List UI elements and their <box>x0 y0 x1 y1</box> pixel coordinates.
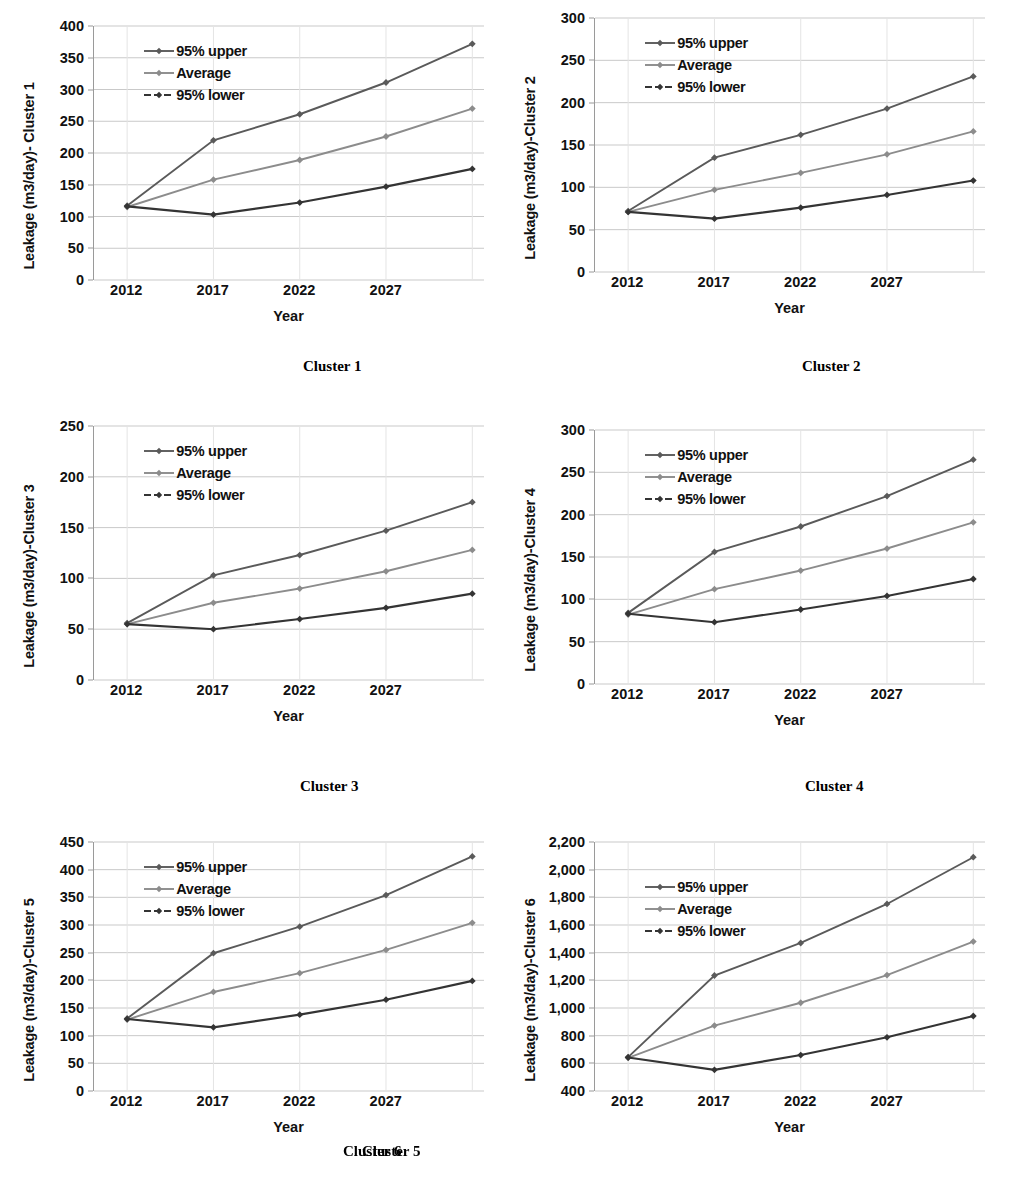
data-point-marker <box>296 199 303 206</box>
x-axis-title: Year <box>594 300 985 316</box>
chart-panel-cluster-2: Leakage (m3/day)-Cluster 205010015020025… <box>505 0 1009 410</box>
y-tick-label: 400 <box>60 18 84 34</box>
legend: 95% upperAverage95% lower <box>144 440 247 506</box>
legend-item-average[interactable]: Average <box>645 898 748 920</box>
legend-item-upper[interactable]: 95% upper <box>144 40 247 62</box>
x-tick-label: 2012 <box>110 1093 142 1109</box>
data-point-marker <box>296 970 303 977</box>
y-tick-label: 50 <box>569 634 585 650</box>
y-tick-label: 800 <box>561 1028 585 1044</box>
data-point-marker <box>797 1052 804 1059</box>
x-tick-label: 2017 <box>197 1093 229 1109</box>
data-point-marker <box>970 519 977 526</box>
y-tick-label: 0 <box>577 676 585 692</box>
legend: 95% upperAverage95% lower <box>144 40 247 106</box>
x-axis-ticks: 2012201720222027 <box>93 682 484 702</box>
y-axis-title-text: Leakage (m3/day)-Cluster 2 <box>522 76 538 259</box>
y-tick-label: 100 <box>561 591 585 607</box>
y-tick-label: 50 <box>68 240 84 256</box>
x-axis-ticks: 2012201720222027 <box>93 282 484 302</box>
y-axis-title: Leakage (m3/day)-Cluster 4 <box>519 430 541 730</box>
y-tick-label: 150 <box>561 137 585 153</box>
data-point-marker <box>970 1013 977 1020</box>
data-point-marker <box>469 590 476 597</box>
x-axis-ticks: 2012201720222027 <box>594 686 985 706</box>
chart-5: Leakage (m3/day)-Cluster 505010015020025… <box>18 842 488 1137</box>
data-point-marker <box>884 493 891 500</box>
data-point-marker <box>210 989 217 996</box>
chart-panel-cluster-4: Leakage (m3/day)-Cluster 405010015020025… <box>505 410 1009 820</box>
y-tick-label: 2,200 <box>549 834 585 850</box>
y-tick-label: 50 <box>68 1055 84 1071</box>
legend-label: Average <box>677 58 732 73</box>
legend-swatch-icon <box>645 925 675 937</box>
y-tick-label: 250 <box>60 418 84 434</box>
y-tick-label: 300 <box>561 10 585 26</box>
y-axis-title-text: Leakage (m3/day)-Cluster 3 <box>21 484 37 667</box>
legend-swatch-icon <box>144 883 174 895</box>
data-point-marker <box>970 177 977 184</box>
y-tick-label: 1,800 <box>549 889 585 905</box>
data-point-marker <box>884 545 891 552</box>
legend-item-average[interactable]: Average <box>645 54 748 76</box>
x-tick-label: 2027 <box>871 1093 903 1109</box>
x-tick-label: 2017 <box>698 1093 730 1109</box>
y-tick-label: 150 <box>60 1000 84 1016</box>
legend-item-upper[interactable]: 95% upper <box>144 440 247 462</box>
legend-item-lower[interactable]: 95% lower <box>144 84 247 106</box>
chart-panel-cluster-3: Leakage (m3/day)-Cluster 305010015020025… <box>0 410 505 820</box>
y-tick-label: 150 <box>60 177 84 193</box>
legend-label: Average <box>677 470 732 485</box>
y-tick-label: 1,200 <box>549 972 585 988</box>
legend-item-upper[interactable]: 95% upper <box>645 876 748 898</box>
x-axis-ticks: 2012201720222027 <box>594 1093 985 1113</box>
data-point-marker <box>383 604 390 611</box>
y-axis-title: Leakage (m3/day)-Cluster 6 <box>519 842 541 1137</box>
data-point-marker <box>711 1066 718 1073</box>
legend: 95% upperAverage95% lower <box>144 856 247 922</box>
data-point-marker <box>797 131 804 138</box>
legend-item-lower[interactable]: 95% lower <box>645 488 748 510</box>
x-tick-label: 2017 <box>698 686 730 702</box>
legend-item-lower[interactable]: 95% lower <box>144 900 247 922</box>
legend-swatch-icon <box>144 905 174 917</box>
y-tick-label: 0 <box>577 264 585 280</box>
legend-item-upper[interactable]: 95% upper <box>645 444 748 466</box>
data-point-marker <box>884 192 891 199</box>
legend-label: 95% lower <box>677 492 745 507</box>
legend-item-upper[interactable]: 95% upper <box>645 32 748 54</box>
legend-item-average[interactable]: Average <box>144 878 247 900</box>
data-point-marker <box>296 157 303 164</box>
x-tick-label: 2027 <box>871 686 903 702</box>
legend-item-lower[interactable]: 95% lower <box>645 920 748 942</box>
legend-swatch-icon <box>144 489 174 501</box>
data-point-marker <box>210 1024 217 1031</box>
legend-item-lower[interactable]: 95% lower <box>645 76 748 98</box>
data-point-marker <box>711 619 718 626</box>
legend-item-average[interactable]: Average <box>144 462 247 484</box>
y-axis-ticks: 050100150200250300 <box>541 18 589 318</box>
chart-1: Leakage (m3/day)- Cluster 10501001502002… <box>18 26 488 326</box>
legend-item-upper[interactable]: 95% upper <box>144 856 247 878</box>
data-point-marker <box>469 165 476 172</box>
legend-item-lower[interactable]: 95% lower <box>144 484 247 506</box>
legend-item-average[interactable]: Average <box>144 62 247 84</box>
data-point-marker <box>797 204 804 211</box>
legend-label: 95% upper <box>176 444 247 459</box>
legend-label: Average <box>176 882 231 897</box>
data-point-marker <box>711 586 718 593</box>
y-axis-title: Leakage (m3/day)-Cluster 2 <box>519 18 541 318</box>
legend-label: 95% upper <box>677 36 748 51</box>
chart-caption: Cluster 3 <box>300 778 358 795</box>
legend-label: 95% lower <box>176 904 244 919</box>
y-axis-title: Leakage (m3/day)-Cluster 5 <box>18 842 40 1137</box>
y-axis-ticks: 050100150200250 <box>40 426 88 726</box>
legend-swatch-icon <box>645 493 675 505</box>
legend-item-average[interactable]: Average <box>645 466 748 488</box>
legend-swatch-icon <box>645 81 675 93</box>
data-point-marker <box>383 568 390 575</box>
data-point-marker <box>469 105 476 112</box>
x-tick-label: 2022 <box>283 682 315 698</box>
legend: 95% upperAverage95% lower <box>645 444 748 510</box>
data-point-marker <box>210 599 217 606</box>
